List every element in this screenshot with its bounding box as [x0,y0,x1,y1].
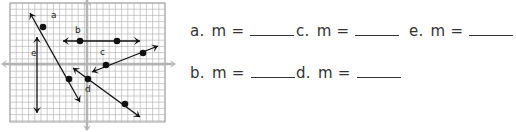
slope-equals: m = [212,64,245,82]
answer-b: b.m = [190,64,295,82]
slope-equals: m = [318,64,351,82]
answer-blanks: a.m =c.m =e.m =b.m =d.m = [0,0,516,132]
answer-blank[interactable] [357,65,401,78]
answer-a: a.m = [190,22,294,40]
answer-blank[interactable] [251,65,295,78]
answer-d: d.m = [296,64,401,82]
answer-blank[interactable] [250,23,294,36]
answer-e: e.m = [409,22,513,40]
slope-equals: m = [212,22,245,40]
answer-label: c. [296,22,310,40]
slope-equals: m = [431,22,464,40]
answer-blank[interactable] [469,23,513,36]
slope-equals: m = [317,22,350,40]
answer-blank[interactable] [355,23,399,36]
answer-label: e. [409,22,424,40]
answer-label: b. [190,64,205,82]
answer-label: a. [190,22,205,40]
answer-c: c.m = [296,22,399,40]
answer-label: d. [296,64,311,82]
